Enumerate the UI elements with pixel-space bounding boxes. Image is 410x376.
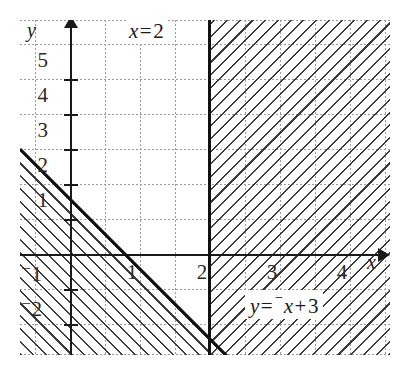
y-axis-name: y (27, 20, 36, 40)
y-axis-label-3: 3 (14, 120, 48, 141)
y-axis-label-1: 1 (14, 190, 48, 211)
x-axis-name: x (367, 252, 376, 272)
x-axis-label-1: 1 (120, 262, 144, 283)
y-axis-label-2: 2 (14, 155, 48, 176)
y-axis-label-4: 4 (14, 85, 48, 106)
slant-line-equation-label: y=⁻x+3 (245, 290, 323, 319)
x-axis-label-4: 4 (330, 262, 354, 283)
x-axis-label-3: 3 (260, 262, 284, 283)
graph-screenshot: 5 4 3 2 1 −1 −2 1 2 3 4 x y x=2 y=⁻x+3 (0, 0, 410, 376)
y-axis-label-neg-1: −1 (8, 260, 42, 285)
coordinate-plane (20, 20, 390, 355)
slant-boundary-line (20, 20, 390, 355)
x-axis-label-2: 2 (190, 262, 214, 283)
vertical-line-equation-label: x=2 (126, 20, 167, 43)
y-axis-label-neg-2: −2 (8, 295, 42, 320)
y-axis-label-5: 5 (14, 50, 48, 71)
